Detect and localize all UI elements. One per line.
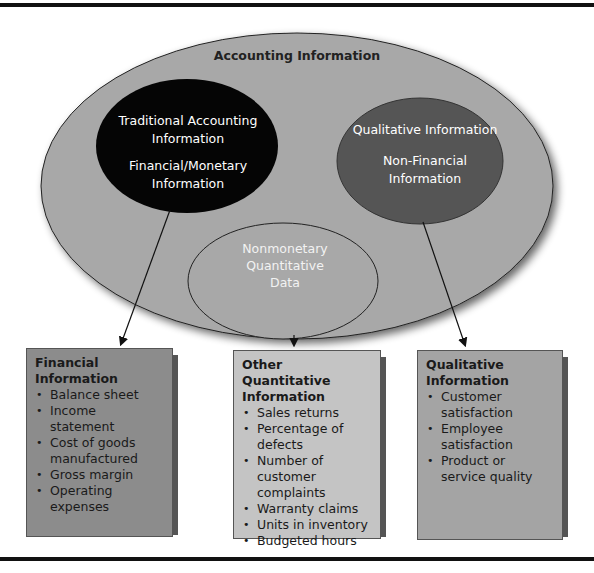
- other-title-line2: Information: [242, 389, 372, 405]
- qualitative-line2: Non-Financial: [345, 152, 505, 170]
- other-title: Other Quantitative Information: [242, 357, 372, 405]
- qualitative-title-line2: Information: [426, 373, 554, 389]
- qualitative-information-box: Qualitative Information Customersatisfac…: [417, 350, 563, 540]
- other-list: Sales returns Percentage of defects Numb…: [242, 405, 372, 549]
- list-item: Number of customercomplaints: [242, 453, 372, 501]
- financial-title-line2: Information: [35, 371, 164, 387]
- financial-title-line1: Financial: [35, 355, 164, 371]
- traditional-line2: Information: [110, 130, 266, 148]
- nonmonetary-line1: Nonmonetary: [230, 240, 340, 257]
- qualitative-title-line1: Qualitative: [426, 357, 554, 373]
- list-item: Balance sheet: [35, 387, 164, 403]
- other-quantitative-box: Other Quantitative Information Sales ret…: [233, 350, 381, 539]
- list-item: Customersatisfaction: [426, 389, 554, 421]
- nonmonetary-label: Nonmonetary Quantitative Data: [230, 240, 340, 291]
- list-item: Gross margin: [35, 467, 164, 483]
- financial-title: Financial Information: [35, 355, 164, 387]
- nonmonetary-line2: Quantitative: [230, 257, 340, 274]
- nonmonetary-line3: Data: [230, 274, 340, 291]
- list-item: Cost of goodsmanufactured: [35, 435, 164, 467]
- list-item: Warranty claims: [242, 501, 372, 517]
- traditional-accounting-label: Traditional Accounting Information Finan…: [110, 112, 266, 193]
- list-item: Units in inventory: [242, 517, 372, 533]
- qualitative-title: Qualitative Information: [426, 357, 554, 389]
- financial-list: Balance sheet Incomestatement Cost of go…: [35, 387, 164, 515]
- list-item: Budgeted hours: [242, 533, 372, 549]
- list-item: Operatingexpenses: [35, 483, 164, 515]
- bottom-rule: [0, 557, 594, 561]
- qualitative-list: Customersatisfaction Employeesatisfactio…: [426, 389, 554, 485]
- list-item: Employeesatisfaction: [426, 421, 554, 453]
- list-item: Sales returns: [242, 405, 372, 421]
- financial-information-box: Financial Information Balance sheet Inco…: [26, 348, 173, 537]
- traditional-line1: Traditional Accounting: [110, 112, 266, 130]
- list-item: Incomestatement: [35, 403, 164, 435]
- qualitative-line3: Information: [345, 170, 505, 188]
- traditional-line4: Information: [110, 175, 266, 193]
- qualitative-information-label: Qualitative Information Non-Financial In…: [345, 121, 505, 188]
- other-title-line1: Other Quantitative: [242, 357, 372, 389]
- list-item: Product orservice quality: [426, 453, 554, 485]
- traditional-line3: Financial/Monetary: [110, 157, 266, 175]
- accounting-information-label: Accounting Information: [197, 47, 397, 65]
- qualitative-line1: Qualitative Information: [345, 121, 505, 139]
- list-item: Percentage of defects: [242, 421, 372, 453]
